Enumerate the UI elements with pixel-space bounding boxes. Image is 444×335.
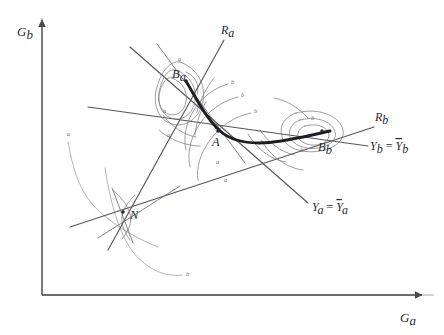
x-axis-label: Ga [400, 310, 416, 328]
curve-tag-a-3: a [167, 131, 170, 138]
constraint-label-Ya-rhs-sub: a [342, 203, 348, 217]
constraint-label-Ya-lhs-sub: a [318, 203, 324, 217]
curve-tag-b-1: b [231, 78, 234, 85]
point-label-Bb-sub: b [326, 143, 332, 157]
curve-tag-a-6: a [224, 176, 227, 183]
point-label-Ba: Ba [172, 67, 186, 84]
point-dot-Bb [320, 129, 323, 132]
point-label-A-main: A [211, 135, 220, 149]
curve-tag-b-3: b [254, 107, 257, 114]
constraint-label-Yb: Yb=Yb [370, 139, 408, 156]
economics-diagram: Gb Ga Ba A Bb N Ra [0, 0, 444, 335]
constraint-label-Yb-eq: = [386, 139, 393, 153]
curve-tag-b-6: b [186, 270, 189, 277]
y-axis-label: Gb [17, 24, 33, 42]
curve-tag-a-1: a [178, 55, 181, 62]
ray-label-Rb: Rb [374, 110, 388, 127]
y-axis-label-sub: b [26, 27, 33, 42]
indifference-curve-a-outer [68, 142, 158, 247]
curve-tag-b-5: b [300, 146, 303, 153]
point-dot-A [216, 129, 219, 132]
x-axis-label-sub: a [409, 313, 416, 328]
curve-tag-b-2: b [241, 91, 244, 98]
axes-group [42, 20, 422, 295]
point-label-N: N [129, 208, 139, 222]
constraint-label-Yb-lhs-sub: b [377, 142, 383, 156]
indifference-cluster-Bb [248, 98, 343, 170]
constraint-label-Ya: Ya=Ya [312, 200, 348, 217]
constraint-label-Yb-rhs-sub: b [402, 142, 408, 156]
plot-frame [42, 18, 434, 295]
curve-tag-b-4: b [311, 114, 314, 121]
point-label-Ba-sub: a [180, 70, 186, 84]
constraint-label-Ya-eq: = [327, 200, 334, 214]
point-label-Bb: Bb [318, 140, 332, 157]
curve-tag-a-5: a [216, 158, 219, 165]
indifference-curve-b-outer [105, 168, 182, 275]
point-dot-N [121, 210, 124, 213]
figure-root: Gb Ga Ba A Bb N Ra [0, 0, 444, 335]
ray-label-Ra-sub: a [228, 26, 234, 40]
point-label-N-main: N [129, 208, 139, 222]
point-markers [121, 79, 323, 213]
ray-label-Ra: Ra [220, 23, 234, 40]
ray-label-Rb-sub: b [382, 113, 388, 127]
curve-tag-a-4: a [67, 130, 70, 137]
curve-tag-a-2: a [163, 107, 166, 114]
point-label-A: A [211, 135, 220, 149]
helper-line-Ba-descend [157, 44, 245, 163]
